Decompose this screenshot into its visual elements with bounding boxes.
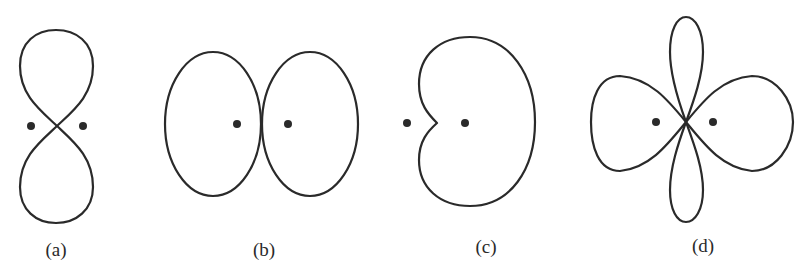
pattern-b-right-lobe [262, 52, 358, 196]
panel-d: (d) [591, 17, 793, 257]
source-dot-right [461, 119, 469, 127]
panel-c: (c) [403, 37, 535, 258]
pattern-c-cardioid [419, 37, 535, 206]
pattern-d-right-lobe [686, 76, 793, 171]
panel-label-c: (c) [475, 236, 496, 258]
source-dot-left [27, 122, 35, 130]
panel-a: (a) [20, 30, 93, 261]
panel-label-d: (d) [692, 235, 714, 257]
source-dot-right [709, 118, 717, 126]
figure: (a) (b) (c) (d) [0, 0, 800, 276]
source-dot-left [652, 118, 660, 126]
source-dot-right [79, 122, 87, 130]
panel-b: (b) [165, 52, 358, 261]
source-dot-right [284, 120, 292, 128]
pattern-b-left-lobe [165, 52, 261, 196]
pattern-d-left-lobe [591, 76, 686, 171]
panel-label-a: (a) [45, 239, 66, 261]
panel-label-b: (b) [253, 239, 275, 261]
figure-canvas: (a) (b) (c) (d) [0, 0, 800, 276]
source-dot-left [403, 119, 411, 127]
source-dot-left [233, 120, 241, 128]
